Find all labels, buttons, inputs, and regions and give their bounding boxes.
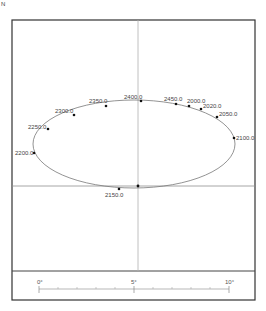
point-marker (118, 188, 121, 191)
scale-label-5: 5° (131, 279, 137, 285)
point-label: 2450.0 (164, 96, 183, 102)
scale-label-10: 10° (225, 279, 235, 285)
point-label: 2020.0 (203, 103, 222, 109)
point-marker (140, 100, 143, 103)
point-marker (200, 108, 203, 111)
point-marker (105, 105, 108, 108)
corner-mark: N (1, 1, 5, 7)
point-marker (233, 137, 236, 140)
point-marker (175, 103, 178, 106)
point-label: 2150.0 (105, 192, 124, 198)
point-label: 2100.0 (236, 135, 255, 141)
scale-bar: 0° 5° 10° (37, 279, 235, 293)
point-marker (188, 105, 191, 108)
point-label: 2400.0 (124, 94, 143, 100)
point-marker (47, 128, 50, 131)
point-label: 2050.0 (219, 111, 238, 117)
orbit-diagram: N 2400.0 2350.0 2300.0 2250.0 2200.0 215… (0, 0, 266, 311)
scale-label-0: 0° (37, 279, 43, 285)
point-label: 2200.0 (15, 150, 34, 156)
point-label: 2350.0 (89, 98, 108, 104)
point-marker (73, 114, 76, 117)
point-label: 2300.0 (55, 108, 74, 114)
center-point-marker (137, 185, 140, 188)
orbit-points: 2400.0 2350.0 2300.0 2250.0 2200.0 2150.… (15, 94, 255, 198)
point-marker (216, 116, 219, 119)
diagram-frame (12, 20, 255, 300)
point-label: 2250.0 (28, 124, 47, 130)
